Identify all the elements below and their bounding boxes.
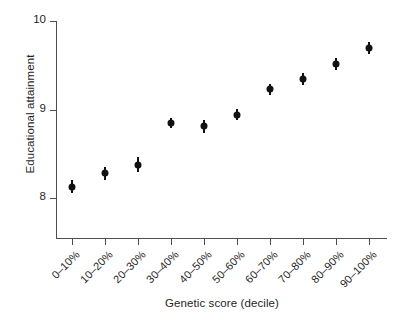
x-tick-mark bbox=[237, 239, 238, 245]
data-point bbox=[266, 86, 273, 93]
y-tick-label: 10 bbox=[6, 14, 46, 26]
data-point bbox=[233, 111, 240, 118]
x-tick-mark bbox=[303, 239, 304, 245]
data-point bbox=[299, 76, 306, 83]
data-point bbox=[200, 123, 207, 130]
x-tick-mark bbox=[72, 239, 73, 245]
y-tick-label: 8 bbox=[6, 191, 46, 203]
y-tick-mark bbox=[50, 21, 56, 22]
x-tick-mark bbox=[336, 239, 337, 245]
data-point bbox=[167, 119, 174, 126]
x-axis-line bbox=[56, 238, 387, 239]
data-point bbox=[101, 170, 108, 177]
data-point bbox=[134, 162, 141, 169]
x-tick-mark bbox=[369, 239, 370, 245]
x-tick-mark bbox=[171, 239, 172, 245]
data-point bbox=[365, 45, 372, 52]
chart-figure: Educational attainment Genetic score (de… bbox=[0, 0, 398, 320]
x-axis-title: Genetic score (decile) bbox=[57, 297, 387, 309]
y-tick-mark bbox=[50, 198, 56, 199]
x-tick-mark bbox=[105, 239, 106, 245]
x-tick-mark bbox=[204, 239, 205, 245]
x-tick-mark bbox=[138, 239, 139, 245]
y-tick-mark bbox=[50, 110, 56, 111]
x-tick-mark bbox=[270, 239, 271, 245]
data-point bbox=[68, 183, 75, 190]
plot-area bbox=[57, 21, 387, 238]
y-tick-label: 9 bbox=[6, 103, 46, 115]
data-point bbox=[332, 61, 339, 68]
